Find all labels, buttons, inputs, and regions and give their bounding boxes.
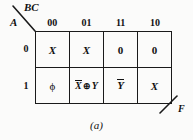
kmap-row-1: ϕ X ⊕ Y Y X	[36, 67, 171, 103]
kmap-row-0: X X 0 0	[36, 32, 171, 67]
kmap-cell-r1c1: X ⊕ Y	[69, 68, 103, 103]
xor-operand-right: Y	[92, 80, 98, 91]
xor-expression: X ⊕ Y	[75, 80, 98, 92]
karnaugh-map-figure: BC A 00 01 11 10 0 1 X X 0 0 ϕ X ⊕ Y	[0, 0, 193, 140]
complement-operand: Y	[117, 79, 124, 92]
output-label: F	[178, 104, 185, 114]
column-header-01: 01	[69, 16, 103, 30]
column-header-10: 10	[138, 16, 172, 30]
kmap-cell-r0c1: X	[69, 32, 103, 67]
kmap-cell-r0c2: 0	[103, 32, 137, 67]
kmap-cell-r0c0: X	[36, 32, 69, 67]
kmap-grid: X X 0 0 ϕ X ⊕ Y Y X	[35, 31, 172, 104]
kmap-cell-r0c3: 0	[137, 32, 171, 67]
column-header-00: 00	[35, 16, 69, 30]
column-header-11: 11	[104, 16, 138, 30]
column-header-row: 00 01 11 10	[35, 16, 172, 30]
column-variables-label: BC	[24, 2, 39, 13]
row-header-column: 0 1	[19, 31, 33, 104]
kmap-cell-r1c0: ϕ	[36, 68, 69, 103]
row-header-1: 1	[19, 68, 33, 105]
kmap-cell-r1c2: Y	[103, 68, 137, 103]
xor-operator-icon: ⊕	[83, 81, 91, 91]
row-header-0: 0	[19, 31, 33, 68]
output-slash-icon	[158, 94, 180, 116]
row-variable-label: A	[10, 17, 17, 28]
figure-caption: (a)	[0, 119, 193, 132]
xor-operand-left: X	[75, 80, 82, 92]
